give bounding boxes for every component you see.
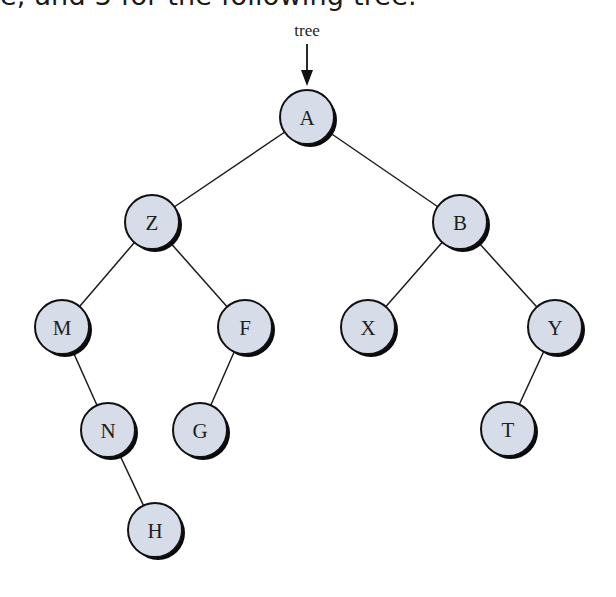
tree-node-a: A xyxy=(280,90,337,147)
edges-layer xyxy=(62,117,555,530)
tree-node-h: H xyxy=(128,503,185,560)
arrowhead-icon xyxy=(301,70,313,86)
tree-node-n: N xyxy=(81,403,138,460)
tree-pointer-label: tree xyxy=(294,21,319,40)
tree-node-t: T xyxy=(481,402,538,459)
edge-a-z xyxy=(152,117,307,222)
tree-node-g: G xyxy=(173,403,230,460)
node-label: X xyxy=(360,316,375,340)
node-label: N xyxy=(100,419,115,443)
tree-node-m: M xyxy=(35,300,92,357)
tree-node-y: Y xyxy=(528,300,585,357)
node-label: B xyxy=(453,211,467,235)
node-label: Y xyxy=(547,316,562,340)
binary-tree-diagram: tree AZBMFXYNGTH xyxy=(0,0,616,597)
node-label: H xyxy=(147,519,162,543)
tree-node-f: F xyxy=(218,300,275,357)
node-label: F xyxy=(239,316,251,340)
tree-node-x: X xyxy=(341,300,398,357)
node-label: Z xyxy=(146,211,159,235)
nodes-layer: AZBMFXYNGTH xyxy=(35,90,585,560)
tree-pointer: tree xyxy=(294,21,319,86)
node-label: M xyxy=(53,316,72,340)
node-label: A xyxy=(299,106,315,130)
node-label: T xyxy=(502,418,515,442)
node-label: G xyxy=(192,419,207,443)
